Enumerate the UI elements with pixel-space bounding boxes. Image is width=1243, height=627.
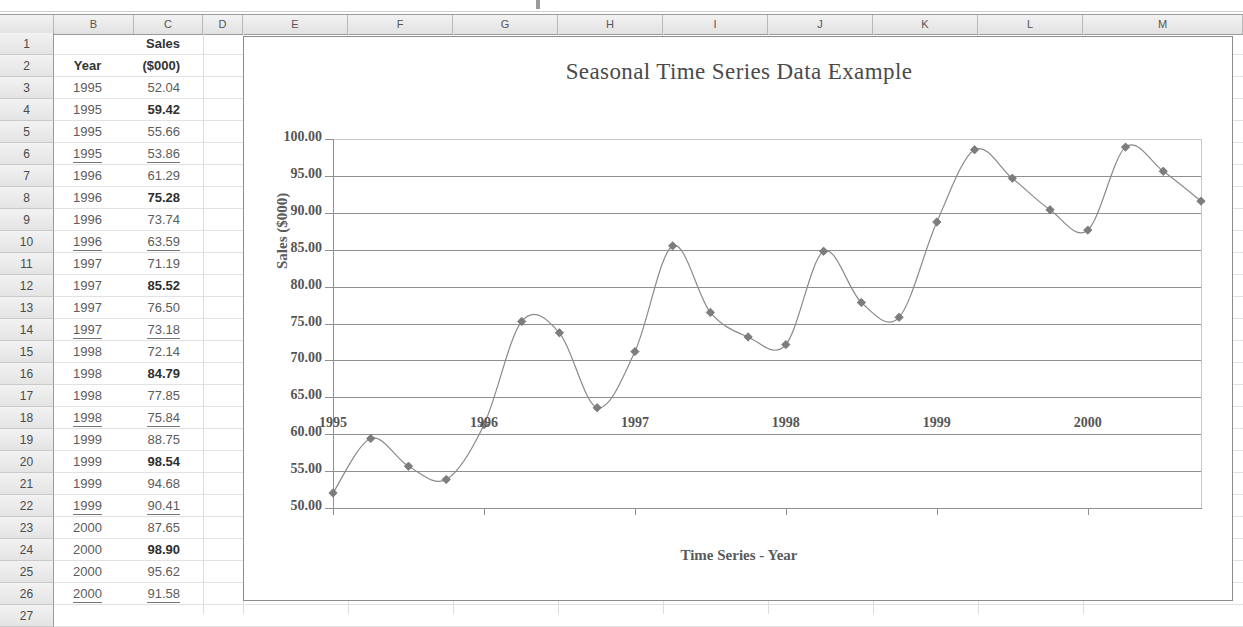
row-header-26[interactable]: 26 bbox=[0, 583, 54, 605]
column-header-h[interactable]: H bbox=[558, 15, 663, 34]
data-point-marker[interactable] bbox=[933, 218, 941, 226]
cell-C18[interactable]: 75.84 bbox=[120, 407, 188, 429]
row-header-20[interactable]: 20 bbox=[0, 451, 54, 473]
cell-C11[interactable]: 71.19 bbox=[120, 253, 188, 275]
column-header-j[interactable]: J bbox=[768, 15, 873, 34]
cell-B6[interactable]: 1995 bbox=[55, 143, 120, 165]
cell-B5[interactable]: 1995 bbox=[55, 121, 120, 143]
row-header-14[interactable]: 14 bbox=[0, 319, 54, 341]
data-point-marker[interactable] bbox=[367, 434, 375, 442]
column-header-i[interactable]: I bbox=[663, 15, 768, 34]
cell-B10[interactable]: 1996 bbox=[55, 231, 120, 253]
cell-B13[interactable]: 1997 bbox=[55, 297, 120, 319]
cell-C17[interactable]: 77.85 bbox=[120, 385, 188, 407]
row-header-16[interactable]: 16 bbox=[0, 363, 54, 385]
cell-C1[interactable]: Sales bbox=[120, 33, 188, 55]
row-header-27[interactable]: 27 bbox=[0, 605, 54, 627]
cell-B16[interactable]: 1998 bbox=[55, 363, 120, 385]
cell-C16[interactable]: 84.79 bbox=[120, 363, 188, 385]
cell-C8[interactable]: 75.28 bbox=[120, 187, 188, 209]
cell-B11[interactable]: 1997 bbox=[55, 253, 120, 275]
column-header-g[interactable]: G bbox=[453, 15, 558, 34]
row-header-21[interactable]: 21 bbox=[0, 473, 54, 495]
cell-B12[interactable]: 1997 bbox=[55, 275, 120, 297]
column-header-f[interactable]: F bbox=[348, 15, 453, 34]
cell-C9[interactable]: 73.74 bbox=[120, 209, 188, 231]
cell-C25[interactable]: 95.62 bbox=[120, 561, 188, 583]
row-header-23[interactable]: 23 bbox=[0, 517, 54, 539]
row-header-1[interactable]: 1 bbox=[0, 33, 54, 55]
cell-C6[interactable]: 53.86 bbox=[120, 143, 188, 165]
cell-B25[interactable]: 2000 bbox=[55, 561, 120, 583]
cell-C26[interactable]: 91.58 bbox=[120, 583, 188, 605]
cell-B15[interactable]: 1998 bbox=[55, 341, 120, 363]
row-header-19[interactable]: 19 bbox=[0, 429, 54, 451]
column-header-b[interactable]: B bbox=[54, 15, 134, 34]
cell-B3[interactable]: 1995 bbox=[55, 77, 120, 99]
cell-B18[interactable]: 1998 bbox=[55, 407, 120, 429]
column-header-m[interactable]: M bbox=[1083, 15, 1243, 34]
cell-C15[interactable]: 72.14 bbox=[120, 341, 188, 363]
cell-C23[interactable]: 87.65 bbox=[120, 517, 188, 539]
column-header-k[interactable]: K bbox=[873, 15, 978, 34]
cell-B23[interactable]: 2000 bbox=[55, 517, 120, 539]
data-point-marker[interactable] bbox=[442, 475, 450, 483]
data-point-marker[interactable] bbox=[593, 404, 601, 412]
row-header-9[interactable]: 9 bbox=[0, 209, 54, 231]
cell-B20[interactable]: 1999 bbox=[55, 451, 120, 473]
data-point-marker[interactable] bbox=[744, 333, 752, 341]
cell-B17[interactable]: 1998 bbox=[55, 385, 120, 407]
cell-B7[interactable]: 1996 bbox=[55, 165, 120, 187]
cell-B9[interactable]: 1996 bbox=[55, 209, 120, 231]
cell-B4[interactable]: 1995 bbox=[55, 99, 120, 121]
row-header-17[interactable]: 17 bbox=[0, 385, 54, 407]
cell-C20[interactable]: 98.54 bbox=[120, 451, 188, 473]
column-header-c[interactable]: C bbox=[134, 15, 203, 34]
data-point-marker[interactable] bbox=[631, 347, 639, 355]
column-header-l[interactable]: L bbox=[978, 15, 1083, 34]
row-header-15[interactable]: 15 bbox=[0, 341, 54, 363]
cell-C4[interactable]: 59.42 bbox=[120, 99, 188, 121]
cell-C5[interactable]: 55.66 bbox=[120, 121, 188, 143]
chart-object[interactable]: Seasonal Time Series Data Example Sales … bbox=[243, 36, 1233, 601]
row-header-6[interactable]: 6 bbox=[0, 143, 54, 165]
cell-B19[interactable]: 1999 bbox=[55, 429, 120, 451]
cell-B1[interactable] bbox=[55, 33, 120, 55]
row-header-24[interactable]: 24 bbox=[0, 539, 54, 561]
row-header-18[interactable]: 18 bbox=[0, 407, 54, 429]
cell-C12[interactable]: 85.52 bbox=[120, 275, 188, 297]
cell-B24[interactable]: 2000 bbox=[55, 539, 120, 561]
cell-C2[interactable]: ($000) bbox=[120, 55, 188, 77]
select-all-corner[interactable] bbox=[0, 15, 54, 34]
cell-B21[interactable]: 1999 bbox=[55, 473, 120, 495]
row-header-13[interactable]: 13 bbox=[0, 297, 54, 319]
cell-C21[interactable]: 94.68 bbox=[120, 473, 188, 495]
row-header-5[interactable]: 5 bbox=[0, 121, 54, 143]
cell-B8[interactable]: 1996 bbox=[55, 187, 120, 209]
cell-C3[interactable]: 52.04 bbox=[120, 77, 188, 99]
row-header-3[interactable]: 3 bbox=[0, 77, 54, 99]
row-header-22[interactable]: 22 bbox=[0, 495, 54, 517]
row-header-4[interactable]: 4 bbox=[0, 99, 54, 121]
data-point-marker[interactable] bbox=[329, 489, 337, 497]
cell-C19[interactable]: 88.75 bbox=[120, 429, 188, 451]
data-point-marker[interactable] bbox=[404, 462, 412, 470]
cell-B2[interactable]: Year bbox=[55, 55, 120, 77]
cell-C7[interactable]: 61.29 bbox=[120, 165, 188, 187]
cell-C24[interactable]: 98.90 bbox=[120, 539, 188, 561]
row-header-10[interactable]: 10 bbox=[0, 231, 54, 253]
column-header-d[interactable]: D bbox=[203, 15, 243, 34]
table-row[interactable] bbox=[54, 605, 1243, 627]
cell-B14[interactable]: 1997 bbox=[55, 319, 120, 341]
row-header-2[interactable]: 2 bbox=[0, 55, 54, 77]
column-header-e[interactable]: E bbox=[243, 15, 348, 34]
cell-C13[interactable]: 76.50 bbox=[120, 297, 188, 319]
cell-C14[interactable]: 73.18 bbox=[120, 319, 188, 341]
row-header-8[interactable]: 8 bbox=[0, 187, 54, 209]
row-header-11[interactable]: 11 bbox=[0, 253, 54, 275]
cell-C22[interactable]: 90.41 bbox=[120, 495, 188, 517]
row-header-12[interactable]: 12 bbox=[0, 275, 54, 297]
row-header-7[interactable]: 7 bbox=[0, 165, 54, 187]
row-header-25[interactable]: 25 bbox=[0, 561, 54, 583]
cell-B22[interactable]: 1999 bbox=[55, 495, 120, 517]
